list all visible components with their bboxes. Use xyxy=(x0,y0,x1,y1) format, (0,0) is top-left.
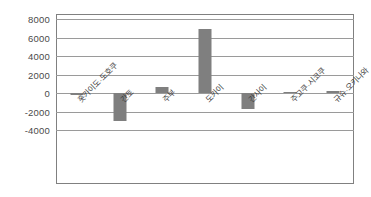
y-axis-tick-label: 8000 xyxy=(0,14,50,25)
y-axis-tick-label: 6000 xyxy=(0,32,50,43)
gridline xyxy=(56,130,354,131)
bar xyxy=(198,29,211,93)
bar-slot xyxy=(269,19,312,130)
y-axis-tick-label: 2000 xyxy=(0,69,50,80)
y-axis-tick-label: -4000 xyxy=(0,125,50,136)
y-axis-tick-label: -2000 xyxy=(0,106,50,117)
y-axis-tick-label: 0 xyxy=(0,88,50,99)
bar-slot xyxy=(56,19,99,130)
y-axis-tick-label: 4000 xyxy=(0,51,50,62)
bar-slot xyxy=(226,19,269,130)
bar-slot xyxy=(141,19,184,130)
bar-slot xyxy=(184,19,227,130)
